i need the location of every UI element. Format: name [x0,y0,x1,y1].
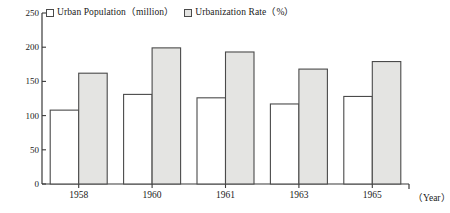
x-tick-label-1960: 1960 [143,190,162,200]
x-tick-marks [79,184,373,188]
bar-urbanization-rate-1965 [372,62,401,184]
x-tick-label-1965: 1965 [363,190,382,200]
bar-urban-population-1961 [197,98,226,184]
bar-chart: 050100150200250 19581960196119631965 （Ye… [0,0,450,213]
x-axis-unit-label: （Year） [413,190,450,204]
bar-urban-population-1963 [270,104,299,184]
y-tick-label: 100 [2,111,42,121]
y-tick-label: 250 [2,8,42,18]
y-tick-label: 150 [2,76,42,86]
legend-label-urbanization-rate: Urbanization Rate（%） [195,8,294,18]
chart-legend: Urban Population（million） Urbanization R… [46,8,295,18]
bar-urbanization-rate-1963 [299,69,328,184]
bar-urban-population-1965 [344,96,373,184]
x-tick-label-1958: 1958 [69,190,88,200]
legend-entry-urban-population: Urban Population（million） [46,8,174,18]
legend-swatch-urban-population [46,9,54,17]
y-tick-label: 200 [2,42,42,52]
bar-urbanization-rate-1961 [226,52,255,184]
y-axis-tick-labels: 050100150200250 [0,0,42,213]
legend-label-urban-population: Urban Population（million） [57,8,174,18]
x-tick-label-1963: 1963 [289,190,308,200]
bar-urban-population-1958 [50,110,78,184]
y-tick-label: 0 [2,179,42,189]
legend-entry-urbanization-rate: Urbanization Rate（%） [184,8,294,18]
chart-canvas [0,0,450,213]
y-tick-label: 50 [2,145,42,155]
bars [50,48,401,184]
bar-urbanization-rate-1960 [152,48,181,184]
bar-urban-population-1960 [124,94,153,184]
legend-swatch-urbanization-rate [184,9,192,17]
x-tick-label-1961: 1961 [216,190,235,200]
bar-urbanization-rate-1958 [79,73,108,184]
